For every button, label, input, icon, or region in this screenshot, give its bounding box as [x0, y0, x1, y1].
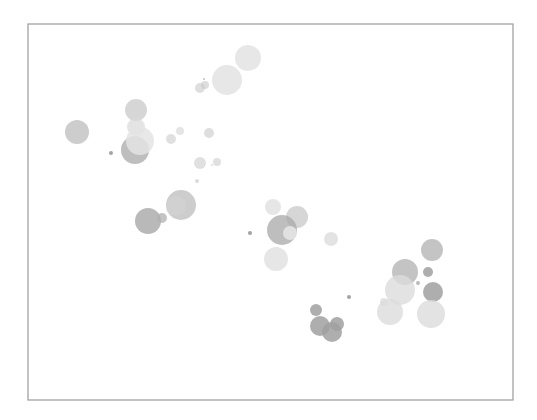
data-point [166, 196, 186, 216]
data-point [125, 99, 147, 121]
data-point [201, 81, 209, 89]
data-point [416, 281, 420, 285]
bubble-chart [0, 0, 537, 420]
data-point [166, 134, 176, 144]
data-point [264, 247, 288, 271]
data-point [248, 231, 252, 235]
data-point [213, 158, 221, 166]
data-point [195, 179, 199, 183]
data-point [176, 127, 184, 135]
data-point [421, 239, 443, 261]
data-point [283, 226, 297, 240]
data-point [211, 164, 213, 166]
data-point [65, 120, 89, 144]
data-point [194, 157, 206, 169]
data-point [203, 78, 205, 80]
data-point [330, 317, 344, 331]
data-point [109, 151, 113, 155]
data-point [265, 199, 281, 215]
data-point [212, 65, 242, 95]
data-point [126, 127, 154, 155]
data-point [235, 45, 261, 71]
data-point [377, 299, 403, 325]
data-point [347, 295, 351, 299]
data-point [417, 300, 445, 328]
data-point [157, 213, 167, 223]
data-point [204, 128, 214, 138]
data-point [135, 208, 161, 234]
data-point [310, 304, 322, 316]
data-point [423, 282, 443, 302]
data-point [324, 232, 338, 246]
data-point [423, 267, 433, 277]
